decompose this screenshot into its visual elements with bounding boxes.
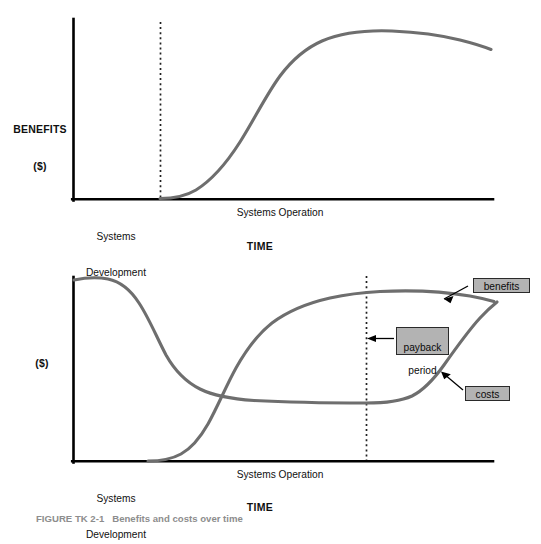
bottom-chart-y-axis-title: ($) [18,357,66,369]
bottom-chart-phase-label-systems-development: Systems Development [72,469,160,544]
figure-caption: FIGURE TK 2-1 Benefits and costs over ti… [36,513,536,524]
top-chart-group [72,19,493,201]
top-chart-phase-label-sd-line1: Systems [72,231,160,243]
top-chart-phase-label-systems-development: Systems Development [72,207,160,303]
top-chart-y-axis-title-line1: BENEFITS [6,123,74,135]
bottom-chart-phase-label-sd-line2: Development [72,529,160,541]
top-chart-x-axis-title: TIME [215,240,305,252]
bottom-chart-phase-label-systems-operation: Systems Operation [200,469,360,481]
callout-benefits-label: benefits [473,278,530,293]
top-chart-y-axis-title: BENEFITS ($) [6,98,74,197]
top-chart-y-axis-title-line2: ($) [6,160,74,172]
callout-costs-label: costs [465,386,510,401]
top-chart-phase-label-systems-operation: Systems Operation [200,207,360,219]
top-chart-benefits-curve [160,31,491,199]
payback-callout-arrowhead-icon [367,335,376,342]
top-chart-phase-label-sd-line2: Development [72,267,160,279]
callout-payback-period-label: payback period [396,327,449,355]
callout-payback-line1: payback [402,342,443,354]
callout-payback-line2: period [402,365,443,377]
bottom-chart-x-axis-title: TIME [215,501,305,513]
bottom-chart-phase-label-sd-line1: Systems [72,493,160,505]
